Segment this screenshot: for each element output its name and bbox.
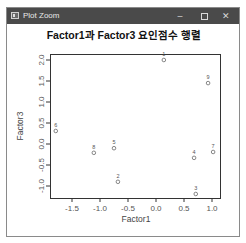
x-axis-label: Factor1 (122, 214, 151, 224)
x-tick-label: -1.5 (65, 204, 79, 213)
data-point (116, 180, 120, 184)
y-tick-label: 1.0 (37, 96, 46, 108)
data-point (211, 150, 215, 154)
data-point (54, 129, 58, 133)
point-label: 7 (212, 143, 215, 149)
x-tick-label: -1.0 (93, 204, 107, 213)
x-tick-label: 0.0 (150, 204, 162, 213)
data-point (112, 146, 116, 150)
x-tick-label: -0.5 (121, 204, 135, 213)
y-tick-label: 1.5 (37, 75, 46, 87)
plot-zoom-window: Plot Zoom – ✕ Factor1과 Factor3 요인점수 행렬 -… (6, 7, 240, 237)
scatter-chart: -1.5-1.0-0.50.00.51.0-1.0-0.50.00.51.01.… (7, 8, 241, 238)
point-label: 9 (207, 74, 210, 80)
point-label: 3 (194, 185, 197, 191)
y-tick-label: 2.0 (37, 54, 46, 66)
x-tick-label: 0.5 (178, 204, 190, 213)
point-label: 2 (116, 173, 119, 179)
x-tick-label: 1.0 (206, 204, 218, 213)
data-point (162, 58, 166, 62)
y-tick-label: 0.5 (37, 117, 46, 129)
point-label: 1 (162, 51, 165, 57)
y-tick-label: -0.5 (37, 158, 46, 172)
data-point (206, 81, 210, 85)
y-tick-label: -1.0 (37, 179, 46, 193)
point-label: 4 (193, 149, 196, 155)
data-point (194, 192, 198, 196)
y-tick-label: 0.0 (37, 138, 46, 150)
point-label: 6 (54, 122, 57, 128)
point-label: 8 (92, 144, 95, 150)
point-label: 5 (112, 139, 115, 145)
data-point (92, 151, 96, 155)
data-point (192, 156, 196, 160)
y-axis-label: Factor3 (15, 111, 25, 140)
